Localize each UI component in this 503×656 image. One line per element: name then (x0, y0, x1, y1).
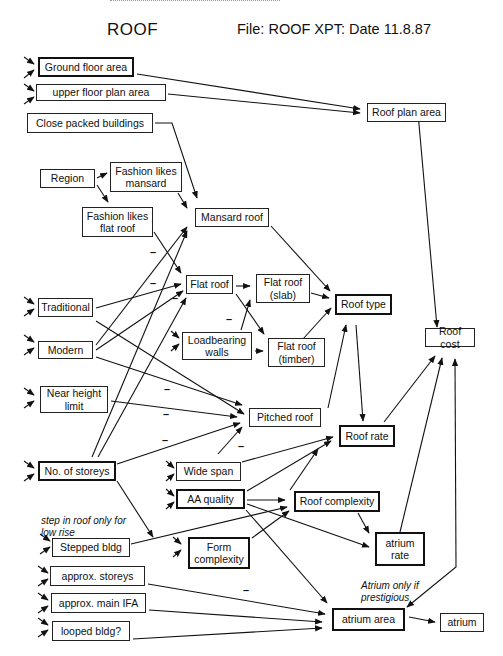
node-approx-storeys: approx. storeys (50, 566, 145, 586)
node-looped-bldg: looped bldg? (52, 621, 130, 641)
node-ground-floor-area: Ground floor area (38, 57, 134, 77)
node-atrium-rate: atrium rate (375, 532, 425, 566)
node-traditional: Traditional (38, 298, 93, 317)
node-pitched-roof: Pitched roof (249, 408, 321, 427)
node-modern: Modern (38, 341, 93, 359)
node-atrium-area: atrium area (332, 608, 405, 631)
node-near-height-limit: Near height limit (40, 386, 108, 413)
node-fashion-likes-flat-roof: Fashion likes flat roof (82, 207, 153, 237)
node-roof-cost: Roof cost (425, 328, 475, 347)
negation-marker: – (163, 408, 169, 420)
node-upper-floor-plan-area: upper floor plan area (36, 84, 166, 101)
node-roof-type: Roof type (335, 294, 392, 315)
node-stepped-bldg: Stepped bldg (52, 538, 130, 557)
node-flat-roof-timber: Flat roof (timber) (268, 338, 325, 367)
node-no-of-storeys: No. of storeys (38, 461, 116, 481)
node-mansard-roof: Mansard roof (195, 208, 269, 227)
node-wide-span: Wide span (176, 462, 241, 481)
node-roof-plan-area: Roof plan area (367, 103, 446, 122)
node-roof-complexity: Roof complexity (294, 491, 380, 512)
negation-marker: – (243, 584, 249, 596)
note-atrium-prestigious: Atrium only if prestigious (361, 580, 431, 604)
negation-marker: – (172, 292, 178, 304)
node-approx-main-ifa: approx. main IFA (51, 593, 146, 613)
node-atrium: atrium (440, 613, 484, 632)
node-form-complexity: Form complexity (188, 537, 250, 569)
node-region: Region (40, 169, 95, 188)
node-roof-rate: Roof rate (339, 425, 395, 447)
node-loadbearing-walls: Loadbearing walls (182, 332, 252, 360)
node-flat-roof: Flat roof (186, 275, 233, 294)
negation-marker: – (238, 440, 244, 452)
negation-marker: – (164, 383, 170, 395)
node-flat-roof-slab: Flat roof (slab) (256, 274, 310, 303)
negation-marker: – (226, 313, 232, 325)
negation-marker: – (150, 246, 156, 258)
note-stepped-low-rise: step in roof only for low rise (41, 515, 136, 539)
negation-marker: – (150, 277, 156, 289)
node-close-packed-buildings: Close packed buildings (27, 113, 153, 133)
negation-marker: – (162, 434, 168, 446)
node-aa-quality: AA quality (176, 489, 245, 509)
node-fashion-likes-mansard: Fashion likes mansard (110, 162, 182, 192)
